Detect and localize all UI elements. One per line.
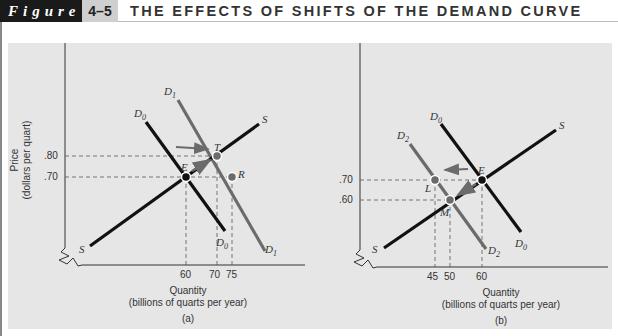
point-e [182,173,191,182]
x-axis-title-a: Quantity [108,285,268,296]
label-point-r: R [238,168,245,180]
x-tick-60: 60 [180,269,191,280]
x-tick-50: 50 [444,271,455,282]
y-tick-80: .80 [44,150,58,161]
label-point-e: E [181,161,188,173]
panel-caption-b: (b) [481,315,521,326]
y-axis-title: Price [9,115,21,205]
x-axis-subtitle-a: (billions of quarts per year) [108,297,268,308]
label-d0-bottom: D0 [515,237,527,252]
label-d0-top: D0 [134,107,146,122]
label-point-t: T [214,141,220,153]
point-l [431,176,440,185]
y-axis-subtitle: (dollars per quart) [21,115,33,205]
y-axis-label-a: Price (dollars per quart) [14,110,28,200]
label-point-m: M [440,206,449,218]
y-tick-60: .60 [339,194,353,205]
x-axis-title-b: Quantity [421,287,581,298]
x-tick-45: 45 [427,271,438,282]
x-axis-subtitle-b: (billions of quarts per year) [421,299,581,310]
x-tick-70: 70 [209,269,220,280]
shift-arrow-right [176,147,208,149]
movement-arrow-e-to-t [192,160,210,171]
x-tick-75: 75 [226,269,237,280]
chart-graphics [0,0,618,336]
y-tick-70: .70 [339,174,353,185]
label-s-bottom: S [372,243,378,255]
label-s-top: S [262,113,268,125]
label-point-e: E [478,164,485,176]
shift-arrow-left [445,169,468,170]
label-d0-bottom: D0 [216,236,228,251]
label-d1-bottom: D1 [265,243,277,258]
label-d2-bottom: D2 [488,244,500,259]
y-tick-70: .70 [44,171,58,182]
panel-a [59,43,305,266]
point-m [446,196,455,205]
x-tick-60: 60 [476,271,487,282]
label-d2-top: D2 [397,129,409,144]
label-point-l: L [425,182,431,194]
label-s-bottom: S [79,243,85,255]
label-d0-top: D0 [430,110,442,125]
supply-curve [90,124,259,246]
panel-caption-a: (a) [168,313,208,324]
panel-b [354,43,608,268]
label-d1-top: D1 [164,85,176,100]
point-e [478,176,487,185]
movement-arrow-e-to-m [458,184,476,195]
label-s-top: S [559,119,565,131]
point-r [228,173,237,182]
guide-lines-a [65,156,232,265]
